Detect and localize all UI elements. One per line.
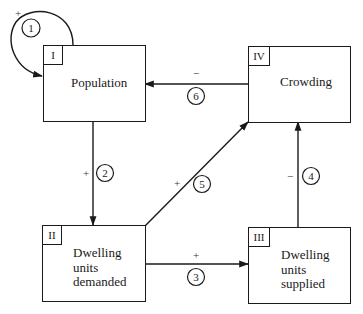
edge-4-sign: − bbox=[287, 170, 293, 182]
node-label: Dwelling units demanded bbox=[73, 246, 126, 290]
edge-5: 5 + bbox=[145, 122, 248, 226]
node-label: Population bbox=[71, 76, 127, 91]
node-id-badge: I bbox=[44, 46, 63, 65]
edge-3: 3 + bbox=[145, 249, 248, 286]
edge-5-sign: + bbox=[174, 177, 180, 189]
edge-1-sign: + bbox=[15, 7, 21, 19]
node-id-badge: II bbox=[43, 226, 62, 245]
node-population: I Population bbox=[43, 45, 146, 122]
edge-4: 4 − bbox=[287, 122, 320, 227]
node-id-badge: III bbox=[249, 228, 270, 247]
edge-1-number: 1 bbox=[28, 22, 34, 34]
node-label: Crowding bbox=[280, 75, 332, 90]
causal-diagram: 1 + 2 + 3 + 4 − 5 + bbox=[0, 0, 363, 314]
edge-2-number: 2 bbox=[102, 167, 108, 179]
node-dwelling-units-demanded: II Dwelling units demanded bbox=[42, 225, 146, 302]
edge-2-sign: + bbox=[83, 167, 89, 179]
edge-6: 6 − bbox=[145, 67, 248, 105]
edge-5-number: 5 bbox=[199, 178, 205, 190]
edge-3-number: 3 bbox=[193, 271, 199, 283]
edge-3-sign: + bbox=[193, 249, 199, 261]
node-id-badge: IV bbox=[249, 47, 270, 66]
node-label: Dwelling units supplied bbox=[281, 248, 329, 292]
edge-2: 2 + bbox=[83, 121, 114, 225]
edge-6-number: 6 bbox=[193, 90, 199, 102]
node-crowding: IV Crowding bbox=[248, 46, 351, 123]
node-dwelling-units-supplied: III Dwelling units supplied bbox=[248, 227, 351, 304]
edge-4-number: 4 bbox=[308, 170, 314, 182]
edge-6-sign: − bbox=[193, 67, 199, 79]
